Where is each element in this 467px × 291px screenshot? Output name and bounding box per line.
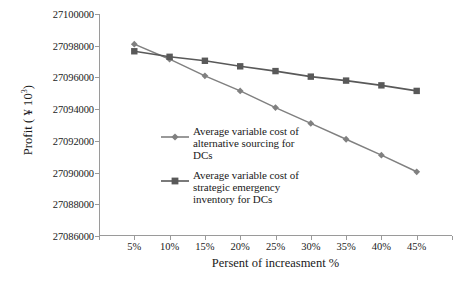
y-axis-tick-labels: 2708600027088000270900002709200027094000… [22,14,94,236]
data-point-marker-diamond [202,72,209,79]
y-axis-tick-label: 27090000 [22,167,94,178]
data-point-marker-diamond [171,133,178,140]
data-point-marker-diamond [378,152,385,159]
data-point-marker-square [308,73,314,79]
data-point-marker-diamond [413,168,420,175]
data-point-marker-square [131,48,137,54]
y-axis-tick-label: 27098000 [22,40,94,51]
legend-label-line: alternative sourcing for [193,137,370,149]
y-axis-tick-label: 27088000 [22,199,94,210]
legend-label-line: DCs [193,149,370,161]
data-point-marker-square [202,58,208,64]
legend-marker-square-icon [160,172,190,182]
data-point-marker-square [414,88,420,94]
data-point-marker-square [237,63,243,69]
data-point-marker-square [172,177,179,184]
data-point-marker-diamond [131,41,138,48]
data-point-marker-square [272,68,278,74]
x-axis-tick-label: 45% [395,240,439,253]
data-point-marker-diamond [237,88,244,95]
y-axis-tick-label: 27096000 [22,72,94,83]
chart-legend: Average variable cost ofalternative sour… [160,125,370,212]
y-axis-tick-label: 27094000 [22,104,94,115]
legend-label-line: Average variable cost of [193,169,370,181]
legend-label-line: strategic emergency [193,181,370,193]
legend-label-1: Average variable cost ofalternative sour… [193,125,370,162]
legend-entry-1[interactable]: Average variable cost ofalternative sour… [160,125,370,162]
data-point-marker-diamond [272,104,279,111]
y-axis-tick-label: 27086000 [22,231,94,242]
legend-entry-2[interactable]: Average variable cost ofstrategic emerge… [160,169,370,206]
legend-marker-diamond-icon [160,128,190,138]
profit-line-chart: Profit ( ¥ 103) 270860002708800027090000… [0,0,467,291]
legend-label-line: inventory for DCs [193,193,370,205]
x-axis-tick-mark [452,236,453,240]
data-point-marker-square [166,54,172,60]
x-axis-tick-labels: 5%10%15%20%25%30%35%40%45% [99,240,452,256]
x-axis-title: Persent of increasment % [99,256,452,271]
legend-label-2: Average variable cost ofstrategic emerge… [193,169,370,206]
y-axis-tick-label: 27100000 [22,9,94,20]
y-axis-tick-label: 27092000 [22,135,94,146]
data-point-marker-square [378,82,384,88]
legend-label-line: Average variable cost of [193,125,370,137]
data-point-marker-square [343,77,349,83]
